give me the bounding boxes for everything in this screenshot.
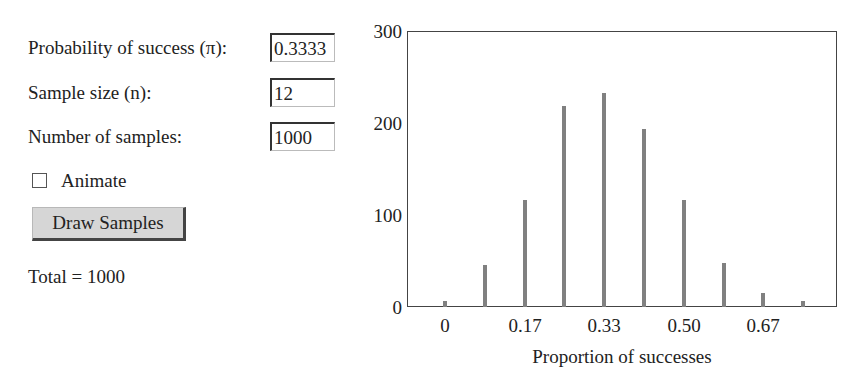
- draw-samples-label: Draw Samples: [52, 212, 163, 234]
- x-axis-label: Proportion of successes: [407, 346, 837, 368]
- x-tick-033: 0.33: [574, 316, 634, 335]
- histogram-bar: [642, 129, 646, 307]
- x-tick-067: 0.67: [733, 316, 793, 335]
- probability-input[interactable]: [270, 33, 335, 62]
- chart-plot-area: [407, 31, 837, 307]
- sample-size-label: Sample size (n):: [28, 83, 151, 102]
- probability-label: Probability of success (π):: [28, 38, 227, 57]
- x-tick-017: 0.17: [495, 316, 555, 335]
- y-tick-100: 100: [362, 206, 402, 225]
- draw-samples-button[interactable]: Draw Samples: [32, 207, 186, 241]
- x-tick-0: 0: [415, 316, 475, 335]
- histogram-bar: [682, 200, 686, 307]
- histogram-bar: [523, 200, 527, 307]
- histogram-bar: [801, 301, 805, 307]
- y-tick-300: 300: [362, 22, 402, 41]
- histogram-bar: [483, 265, 487, 307]
- num-samples-input[interactable]: [270, 122, 335, 151]
- histogram-bar: [602, 93, 606, 307]
- histogram-bar: [562, 106, 566, 307]
- num-samples-label: Number of samples:: [28, 127, 182, 146]
- sample-size-input[interactable]: [270, 78, 335, 107]
- animate-label: Animate: [61, 171, 126, 190]
- y-tick-200: 200: [362, 114, 402, 133]
- x-tick-050: 0.50: [654, 316, 714, 335]
- y-tick-0: 0: [362, 298, 402, 317]
- total-text: Total = 1000: [28, 267, 125, 286]
- animate-checkbox[interactable]: [32, 173, 47, 188]
- histogram-bar: [761, 293, 765, 307]
- histogram-bar: [443, 301, 447, 307]
- histogram-bar: [722, 263, 726, 307]
